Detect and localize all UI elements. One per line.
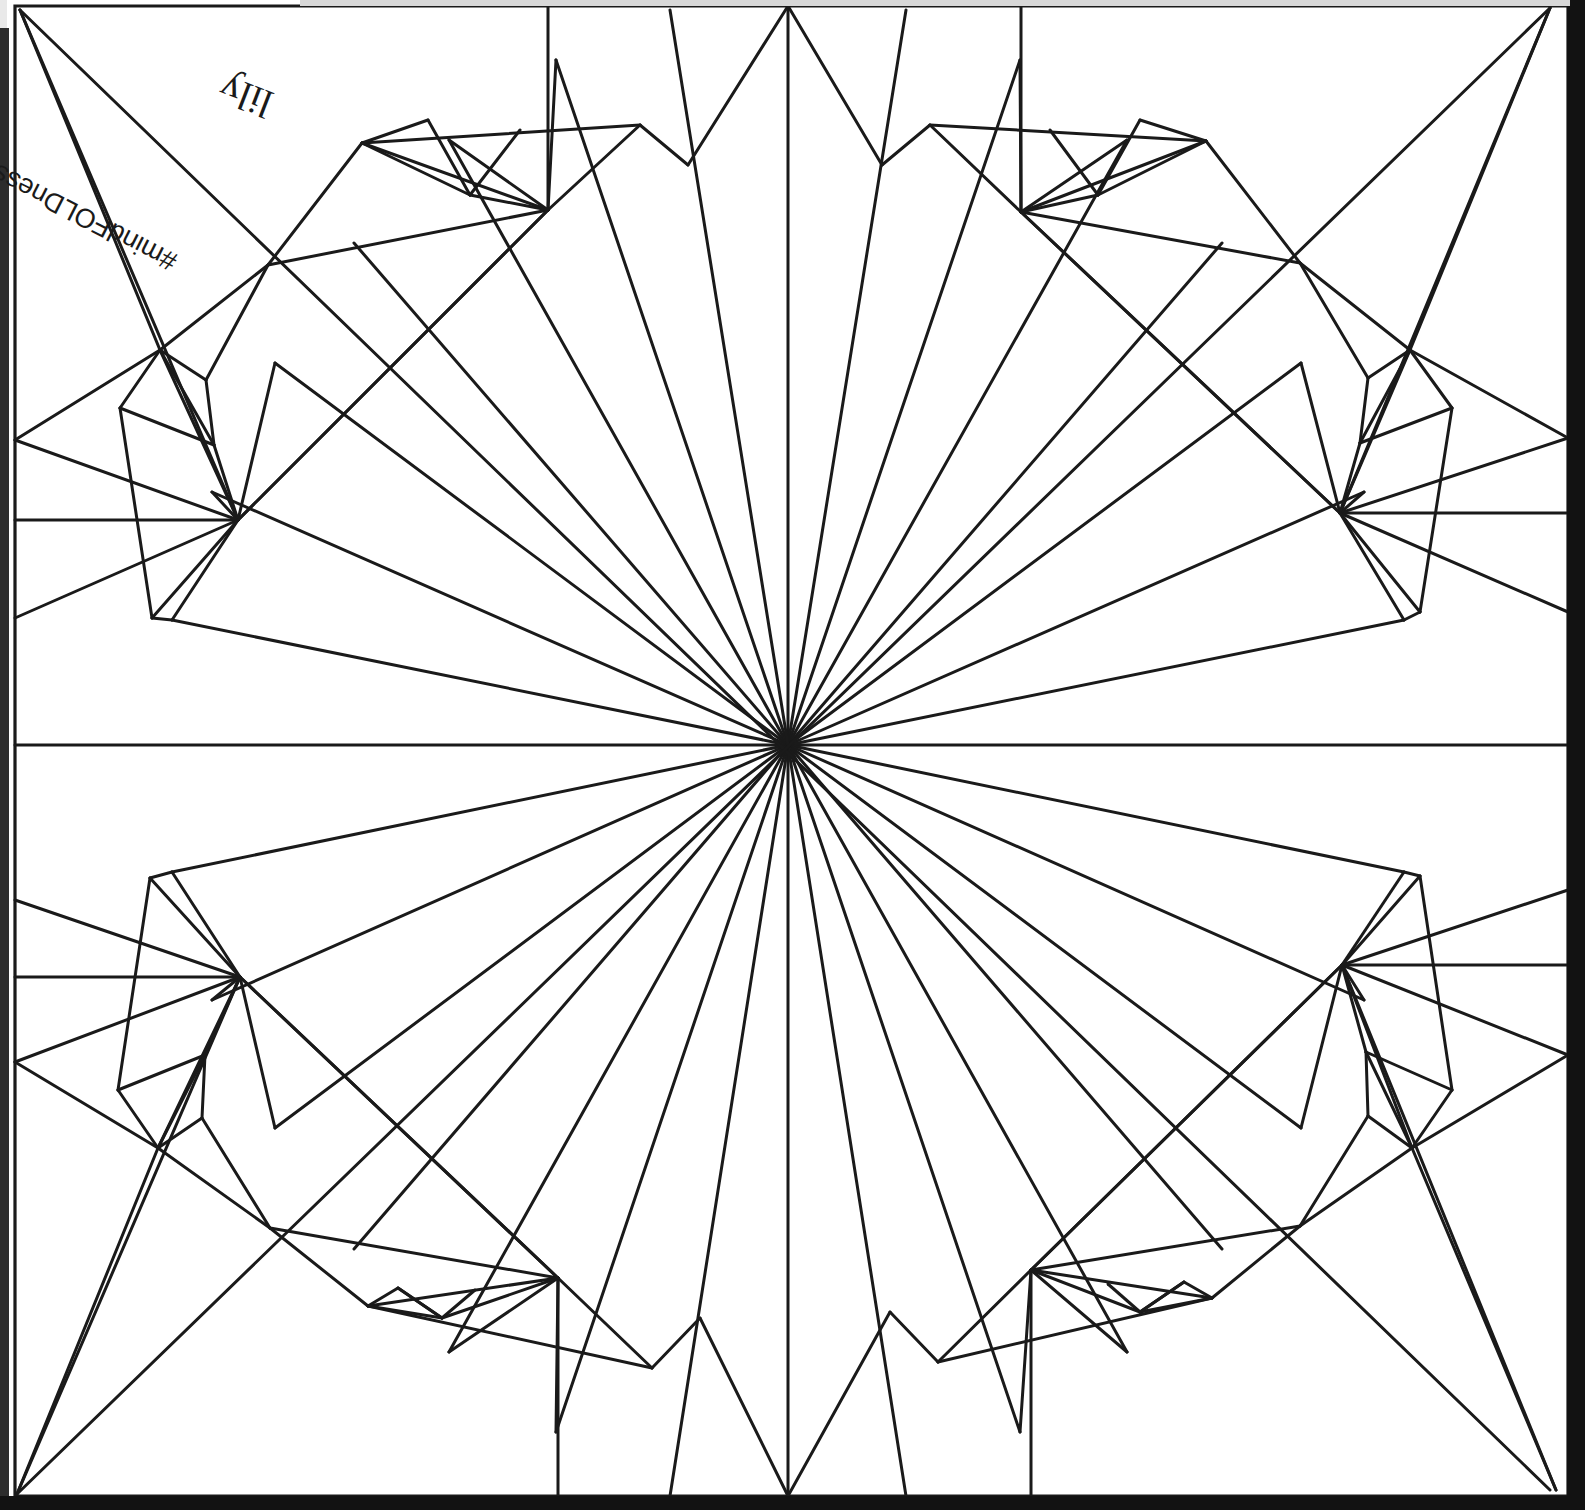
scan-edge-top — [300, 0, 1570, 6]
hub-right-lower-cluster — [1300, 872, 1568, 1226]
scan-edge-left — [0, 28, 9, 1498]
scan-edge-right — [1567, 0, 1585, 1510]
hub-bottom-right-cluster — [890, 965, 1412, 1496]
crease-pattern-canvas: lily #mindFOLDness — [0, 0, 1585, 1510]
crease-pattern-svg — [0, 0, 1585, 1510]
hub-right-upper-cluster — [1300, 263, 1568, 620]
scan-edge-bottom — [0, 1496, 1585, 1510]
hub-left-upper-cluster — [15, 265, 275, 620]
hub-bottom-left-cluster — [158, 977, 700, 1496]
hub-left-lower-cluster — [15, 872, 275, 1228]
